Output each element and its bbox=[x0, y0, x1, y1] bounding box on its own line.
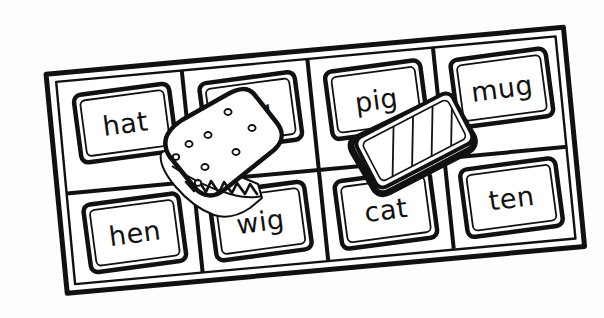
card-word-label: cat bbox=[362, 192, 409, 228]
cracker-hole bbox=[195, 180, 201, 186]
cracker-hole bbox=[173, 154, 179, 160]
word-card-ten[interactable]: ten bbox=[459, 158, 563, 238]
board-illustration: hat jug pig mug hen bbox=[0, 0, 604, 318]
cracker-hole bbox=[232, 149, 239, 155]
cracker-hole bbox=[185, 141, 192, 147]
card-word-label: hat bbox=[101, 105, 150, 142]
card-word-label: ten bbox=[487, 180, 537, 217]
word-card-hat[interactable]: hat bbox=[73, 83, 177, 163]
card-word-label: pig bbox=[353, 82, 400, 118]
cracker-hole bbox=[248, 125, 255, 131]
cracker-hole bbox=[201, 164, 208, 170]
cracker-hole bbox=[204, 132, 211, 138]
word-card-hen[interactable]: hen bbox=[83, 193, 187, 273]
line-drawing-scene: hat jug pig mug hen bbox=[0, 0, 604, 318]
cracker-hole bbox=[224, 109, 231, 115]
word-card-mug[interactable]: mug bbox=[450, 48, 554, 128]
